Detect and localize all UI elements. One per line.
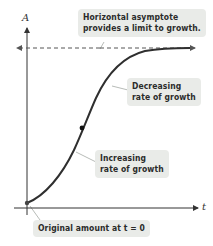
decreasing-rate-callout: Decreasing rate of growth <box>127 78 201 106</box>
initial-point <box>25 201 29 205</box>
growth-curve <box>27 48 190 203</box>
inflection-point <box>80 126 85 131</box>
decreasing-callout-line1: Decreasing <box>132 81 196 92</box>
asymptote-callout: Horizontal asymptote provides a limit to… <box>78 9 206 37</box>
increasing-leader-line <box>76 152 96 162</box>
increasing-callout-line1: Increasing <box>100 153 164 164</box>
decreasing-leader-line <box>112 86 128 90</box>
logistic-growth-diagram: A t Horizontal asymptote provides a limi… <box>0 0 213 246</box>
original-callout-text: Original amount at t = 0 <box>38 223 145 234</box>
y-axis-label: A <box>22 12 29 23</box>
original-amount-callout: Original amount at t = 0 <box>33 220 150 237</box>
increasing-callout-line2: rate of growth <box>100 164 164 175</box>
asymptote-callout-line2: provides a limit to growth. <box>83 23 201 34</box>
x-axis-label: t <box>202 201 206 212</box>
decreasing-callout-line2: rate of growth <box>132 92 196 103</box>
increasing-rate-callout: Increasing rate of growth <box>95 150 169 178</box>
asymptote-callout-line1: Horizontal asymptote <box>83 12 201 23</box>
